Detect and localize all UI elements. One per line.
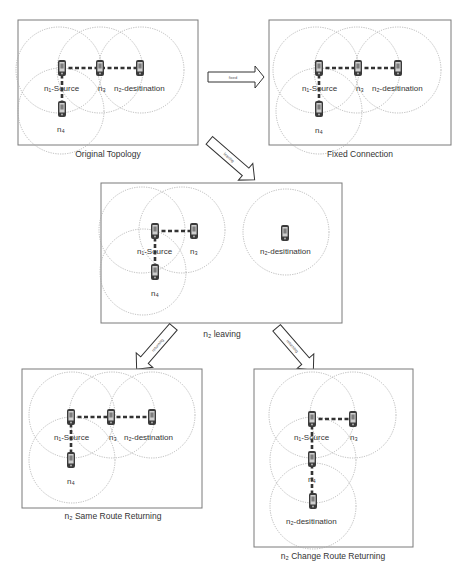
node-n1-label: n₁-Source [294, 433, 330, 442]
node-n2-label: n₂-desitination [114, 84, 165, 93]
node-n1-icon [151, 223, 159, 239]
node-n1-label: n₁-Source [54, 433, 90, 442]
node-n3-label: n₃ [109, 433, 117, 442]
node-n1-label: n₁-Source [44, 84, 80, 93]
node-n4-icon [58, 101, 66, 117]
node-n4-icon [67, 452, 75, 468]
node-n4-label: n₄ [67, 477, 75, 486]
node-n1-icon [308, 411, 316, 427]
node-n2-icon [281, 225, 289, 241]
node-n3-icon [107, 409, 115, 425]
node-n2-label: n₂-desitination [260, 247, 311, 256]
node-n2-icon [309, 493, 317, 509]
node-n2-icon [136, 60, 144, 76]
node-n2-label: n₂-desitination [372, 84, 423, 93]
node-n1-label: n₁-Source [137, 247, 173, 256]
panel-caption: n₂ Same Route Returning [65, 511, 162, 521]
node-n4-label: n₄ [151, 289, 159, 298]
node-n1-label: n₁-Source [302, 84, 338, 93]
panel-caption: n₂ Change Route Returning [281, 551, 386, 561]
arrow-fixed: fixed [208, 66, 264, 88]
arrow-label: fixed [229, 75, 237, 80]
node-n1-icon [67, 409, 75, 425]
panel-caption: n₂ leaving [203, 329, 241, 339]
node-n2-icon [148, 409, 156, 425]
node-n1-icon [58, 60, 66, 76]
node-n4-label: n₄ [57, 125, 65, 134]
panel-change-route-returning: n₁-Source n₃ n₄ n₂-desitination n₂ Chang… [254, 369, 413, 561]
node-n3-icon [190, 223, 198, 239]
node-n3-label: n₃ [350, 433, 358, 442]
node-n3-label: n₃ [190, 247, 198, 256]
panel-border [18, 20, 198, 145]
panel-same-route-returning: n₁-Source n₃ n₂-destination n₄ n₂ Same R… [22, 369, 202, 521]
node-n3-label: n₃ [356, 84, 364, 93]
node-n4-icon [151, 264, 159, 280]
node-n2-icon [394, 60, 402, 76]
node-n4-label: n₄ [308, 475, 316, 484]
node-n3-icon [349, 411, 357, 427]
panel-caption: Original Topology [75, 149, 141, 159]
arrow-returning-same: returning [128, 320, 181, 377]
node-n2-label: n₂-destination [124, 433, 173, 442]
arrow-leaving: leaving [202, 132, 262, 188]
node-n4-icon [315, 101, 323, 117]
node-n1-icon [315, 60, 323, 76]
panel-original-topology: n₁-Source n₃ n₂-desitination n₄ Original… [16, 20, 198, 159]
panel-n2-leaving: n₁-Source n₃ n₂-desitination n₄ n₂ leavi… [99, 183, 342, 339]
topology-diagram: n₁-Source n₃ n₂-desitination n₄ Original… [0, 0, 465, 570]
node-n3-label: n₃ [98, 84, 106, 93]
node-n4-icon [308, 451, 316, 467]
node-n2-label: n₂-desitination [286, 517, 337, 526]
node-n4-label: n₄ [315, 126, 323, 135]
node-n3-icon [354, 60, 362, 76]
panel-fixed-connection: n₁-Source n₃ n₂-desitination n₄ Fixed Co… [269, 20, 451, 159]
panel-caption: Fixed Connection [327, 149, 393, 159]
node-n3-icon [96, 60, 104, 76]
panel-border [269, 20, 451, 145]
